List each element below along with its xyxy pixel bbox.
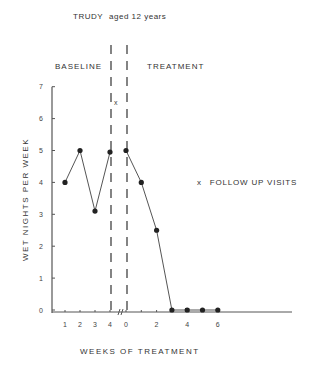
x-tick-label: 4 (185, 321, 189, 328)
y-tick-label: 0 (39, 307, 43, 314)
treatment-series-line (126, 151, 218, 311)
treatment-series-point (200, 307, 205, 312)
treatment-series-point (154, 228, 159, 233)
y-tick-label: 6 (39, 115, 43, 122)
y-tick-label: 7 (39, 83, 43, 90)
treatment-series-point (215, 307, 220, 312)
y-tick-label: 4 (39, 179, 43, 186)
y-tick-label: 3 (39, 211, 43, 218)
baseline-series-point (107, 149, 112, 154)
x-tick-label: 1 (63, 321, 67, 328)
x-tick-label: 3 (93, 321, 97, 328)
x-tick-label: 2 (155, 321, 159, 328)
y-tick-label: 2 (39, 243, 43, 250)
y-tick-label: 1 (39, 275, 43, 282)
plot-area: 0123456712340246x (0, 0, 311, 369)
treatment-series-point (139, 180, 144, 185)
treatment-series-point (123, 148, 128, 153)
x-tick-label: 4 (108, 321, 112, 328)
baseline-series-point (77, 148, 82, 153)
baseline-series-point (92, 209, 97, 214)
baseline-series-line (65, 151, 110, 212)
x-tick-label: 2 (78, 321, 82, 328)
x-tick-label: 0 (124, 321, 128, 328)
y-tick-label: 5 (39, 147, 43, 154)
treatment-series-point (169, 307, 174, 312)
phase-marker-x: x (114, 99, 118, 106)
baseline-series-point (62, 180, 67, 185)
x-tick-label: 6 (216, 321, 220, 328)
